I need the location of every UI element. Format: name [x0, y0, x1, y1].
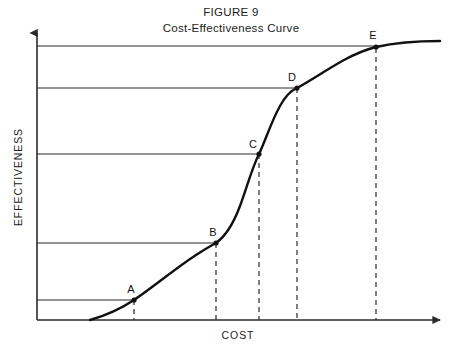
- data-point-c: [256, 151, 261, 156]
- point-label-a: A: [127, 283, 135, 295]
- y-axis-label: EFFECTIVENESS: [12, 128, 24, 226]
- figure-container: FIGURE 9 Cost-Effectiveness Curve EFFECT…: [0, 0, 463, 354]
- data-point-e: [373, 44, 378, 49]
- point-label-d: D: [288, 71, 296, 83]
- x-axis-label: COST: [222, 329, 255, 341]
- data-point-d: [294, 85, 299, 90]
- curve-path: [90, 41, 440, 320]
- data-point-b: [213, 240, 218, 245]
- figure-title: FIGURE 9: [203, 6, 258, 18]
- point-label-e: E: [369, 29, 376, 41]
- point-label-c: C: [249, 138, 257, 150]
- point-label-b: B: [209, 226, 216, 238]
- cost-effectiveness-chart: FIGURE 9 Cost-Effectiveness Curve EFFECT…: [0, 0, 463, 354]
- data-point-a: [131, 297, 136, 302]
- figure-subtitle: Cost-Effectiveness Curve: [163, 22, 300, 34]
